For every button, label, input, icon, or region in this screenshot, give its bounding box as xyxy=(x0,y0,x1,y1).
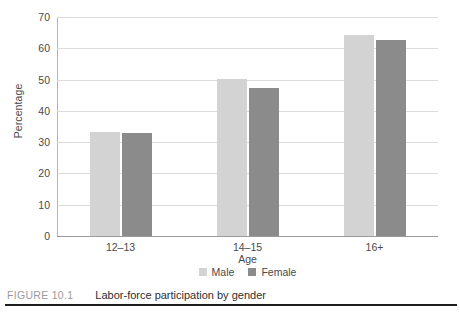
x-tick-label: 16+ xyxy=(315,241,435,253)
y-tick-label-40: 40 xyxy=(38,105,50,117)
y-tick-label-50: 50 xyxy=(38,74,50,86)
chart-area: Percentage 01020304050607012–1314–1516+ … xyxy=(0,0,460,262)
x-tick-label: 12–13 xyxy=(61,241,181,253)
legend-label-male: Male xyxy=(212,266,235,278)
legend-label-female: Female xyxy=(261,266,296,278)
caption-number: FIGURE 10.1 xyxy=(7,289,73,301)
figure-caption: FIGURE 10.1 Labor-force participation by… xyxy=(0,285,460,305)
bar-female xyxy=(249,88,279,236)
legend-entry-male: Male xyxy=(199,266,235,278)
bar-male xyxy=(344,35,374,236)
y-tick-label-0: 0 xyxy=(44,230,50,242)
y-tick-label-10: 10 xyxy=(38,199,50,211)
chart-legend: MaleFemale xyxy=(57,266,438,278)
x-tick-label: 14–15 xyxy=(188,241,308,253)
caption-rule xyxy=(5,304,457,306)
bar-group xyxy=(217,17,279,236)
y-tick-label-70: 70 xyxy=(38,11,50,23)
bar-group xyxy=(344,17,406,236)
y-axis-label: Percentage xyxy=(12,66,24,156)
plot-area: 01020304050607012–1314–1516+ xyxy=(57,17,438,236)
y-tick-label-60: 60 xyxy=(38,42,50,54)
x-axis-label: Age xyxy=(57,253,438,265)
y-tick-label-20: 20 xyxy=(38,167,50,179)
figure-container: Percentage 01020304050607012–1314–1516+ … xyxy=(0,0,460,313)
bar-group xyxy=(90,17,152,236)
y-axis-spine xyxy=(57,17,58,236)
gridline-0: 0 xyxy=(57,236,438,237)
bar-female xyxy=(376,40,406,236)
legend-swatch-male xyxy=(199,268,207,276)
legend-entry-female: Female xyxy=(248,266,296,278)
y-tick-label-30: 30 xyxy=(38,136,50,148)
legend-swatch-female xyxy=(248,268,256,276)
bar-male xyxy=(217,79,247,236)
caption-title: Labor-force participation by gender xyxy=(95,289,266,301)
bar-female xyxy=(122,133,152,236)
bar-male xyxy=(90,132,120,236)
